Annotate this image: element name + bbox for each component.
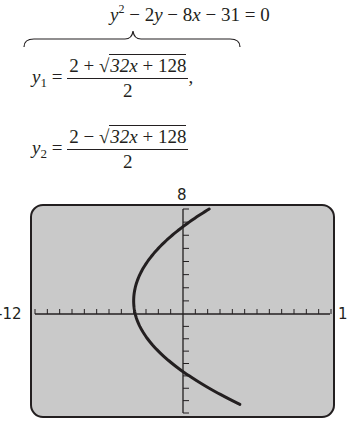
graph-screen <box>0 0 349 425</box>
